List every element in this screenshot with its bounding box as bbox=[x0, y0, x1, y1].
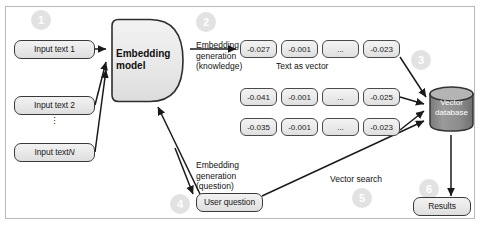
vector-database-label-line-2: database bbox=[428, 108, 475, 118]
input-text-n-node[interactable]: Input text N bbox=[14, 143, 95, 162]
edge-vrow1-to-db bbox=[400, 57, 426, 97]
vector-cell: -0.001 bbox=[281, 88, 318, 106]
input-text-n-index: N bbox=[68, 148, 74, 157]
vector-cell: ... bbox=[322, 118, 359, 136]
vector-cell: -0.001 bbox=[281, 118, 318, 136]
vector-database-label: Vector database bbox=[428, 98, 475, 117]
embedding-question-line-2: generation bbox=[196, 171, 239, 182]
input-text-1-node[interactable]: Input text 1 bbox=[14, 40, 95, 59]
embedding-model-label: Embedding model bbox=[116, 48, 174, 72]
edge-question-embed-arrow bbox=[175, 148, 193, 194]
embedding-model-node[interactable]: Embedding model bbox=[110, 18, 185, 103]
vector-search-label: Vector search bbox=[330, 174, 382, 185]
vector-cell: -0.025 bbox=[363, 88, 400, 106]
vector-cell: ... bbox=[322, 40, 359, 58]
edge-vrow2-to-db bbox=[400, 97, 424, 104]
vector-cell: -0.023 bbox=[363, 40, 400, 58]
embedding-question-line-3: (question) bbox=[196, 181, 239, 192]
text-as-vector-caption: Text as vector bbox=[276, 61, 328, 72]
vector-cell: -0.023 bbox=[363, 118, 400, 136]
vector-cell: -0.035 bbox=[240, 118, 277, 136]
edge-question-to-model bbox=[158, 107, 200, 194]
vector-cell: ... bbox=[322, 88, 359, 106]
embedding-knowledge-line-1: Embedding bbox=[196, 40, 242, 51]
diagram-canvas: 1 2 3 4 5 6 bbox=[0, 0, 481, 235]
vertical-ellipsis-icon: ⋮ bbox=[14, 119, 95, 133]
user-question-node[interactable]: User question bbox=[196, 193, 263, 212]
input-text-2-node[interactable]: Input text 2 bbox=[14, 96, 95, 115]
vector-cell: -0.027 bbox=[240, 40, 277, 58]
embedding-question-line-1: Embedding bbox=[196, 160, 239, 171]
embedding-knowledge-line-2: generation bbox=[196, 51, 242, 62]
embedding-knowledge-line-3: (knowledge) bbox=[196, 61, 242, 72]
vector-cell: -0.041 bbox=[240, 88, 277, 106]
vector-database-label-line-1: Vector bbox=[428, 98, 475, 108]
embedding-knowledge-label: Embedding generation (knowledge) bbox=[196, 40, 242, 72]
results-node[interactable]: Results bbox=[413, 197, 471, 216]
vector-cell: -0.001 bbox=[281, 40, 318, 58]
vector-database-node[interactable]: Vector database bbox=[428, 85, 475, 133]
embedding-question-label: Embedding generation (question) bbox=[196, 160, 239, 192]
